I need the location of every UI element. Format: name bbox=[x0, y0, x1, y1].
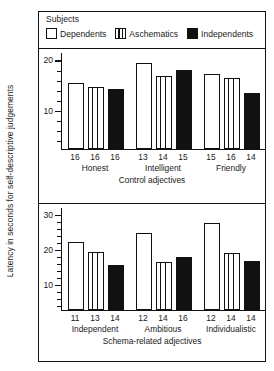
bar-value-label: 12 bbox=[138, 313, 147, 323]
bar-value-label: 14 bbox=[246, 152, 255, 162]
bar bbox=[156, 262, 172, 310]
legend: Subjects Dependents Aschematics Independ… bbox=[38, 11, 266, 49]
y-tick-major: 10 bbox=[55, 111, 62, 112]
bar-group bbox=[136, 207, 192, 310]
y-tick-major: 20 bbox=[55, 60, 62, 61]
striped-square-icon bbox=[115, 28, 126, 39]
bar-value-label: 14 bbox=[158, 313, 167, 323]
bar bbox=[88, 252, 104, 310]
category-label: Ambitious bbox=[145, 324, 182, 334]
bar-group bbox=[68, 207, 124, 310]
category-label: Honest bbox=[82, 163, 109, 173]
bar bbox=[108, 265, 124, 310]
bar-value-label: 16 bbox=[226, 152, 235, 162]
bar bbox=[136, 63, 152, 149]
bar-value-label: 16 bbox=[90, 152, 99, 162]
bar-value-label: 15 bbox=[178, 152, 187, 162]
y-tick-label: 10 bbox=[43, 280, 53, 290]
legend-title: Subjects bbox=[46, 14, 79, 24]
bar-value-label: 14 bbox=[110, 313, 119, 323]
bar-value-label: 13 bbox=[138, 152, 147, 162]
x-axis-line-bottom bbox=[62, 310, 266, 311]
bar bbox=[176, 257, 192, 310]
y-tick-label: 20 bbox=[43, 55, 53, 65]
figure: Latency in seconds for self-descriptive … bbox=[0, 0, 274, 371]
bar bbox=[176, 70, 192, 149]
bar-group bbox=[204, 207, 260, 310]
y-tick-major: 20 bbox=[55, 250, 62, 251]
bar-value-label: 15 bbox=[206, 152, 215, 162]
bar-group bbox=[68, 52, 124, 149]
legend-entry-dependents: Dependents bbox=[46, 28, 106, 39]
bar-value-label: 16 bbox=[70, 152, 79, 162]
y-tick-label: 30 bbox=[43, 210, 53, 220]
bar bbox=[88, 87, 104, 149]
category-labels-bottom: IndependentAmbitiousIndividualistic bbox=[61, 324, 266, 336]
x-axis-title-top: Control adjectives bbox=[38, 175, 266, 185]
category-label: Intelligent bbox=[145, 163, 181, 173]
chart-control-adjectives: 1020 161616131415151614 HonestIntelligen… bbox=[38, 49, 266, 204]
y-axis-title: Latency in seconds for self-descriptive … bbox=[5, 35, 15, 327]
bar bbox=[136, 233, 152, 310]
bar-value-label: 16 bbox=[178, 313, 187, 323]
y-tick-label: 10 bbox=[43, 106, 53, 116]
bar-value-label: 11 bbox=[71, 313, 80, 323]
x-axis-line-top bbox=[62, 149, 266, 150]
plot-area-top: 1020 bbox=[61, 53, 266, 150]
filled-square-icon bbox=[187, 28, 198, 39]
y-tick-major: 30 bbox=[55, 215, 62, 216]
bar bbox=[244, 93, 260, 149]
legend-entry-aschematics: Aschematics bbox=[115, 28, 178, 39]
legend-label-independents: Independents bbox=[201, 29, 253, 39]
y-tick-major: 10 bbox=[55, 285, 62, 286]
bar bbox=[224, 253, 240, 310]
bar bbox=[204, 223, 220, 310]
open-square-icon bbox=[46, 28, 57, 39]
x-axis-title-bottom: Schema-related adjectives bbox=[38, 336, 266, 346]
bar-value-label: 16 bbox=[110, 152, 119, 162]
bar bbox=[244, 261, 260, 310]
bar bbox=[224, 78, 240, 149]
bar bbox=[68, 242, 84, 310]
category-label: Individualistic bbox=[206, 324, 256, 334]
bar-value-label: 14 bbox=[158, 152, 167, 162]
legend-entry-independents: Independents bbox=[187, 28, 253, 39]
bar-value-label: 14 bbox=[226, 313, 235, 323]
category-label: Friendly bbox=[216, 163, 246, 173]
category-labels-top: HonestIntelligentFriendly bbox=[61, 163, 266, 175]
bar-group bbox=[204, 52, 260, 149]
bar-series-bottom bbox=[62, 207, 266, 310]
bar-value-label: 12 bbox=[206, 313, 215, 323]
category-label: Independent bbox=[72, 324, 119, 334]
bar bbox=[204, 74, 220, 149]
bar-value-label: 13 bbox=[90, 313, 99, 323]
bar bbox=[156, 76, 172, 149]
legend-items: Dependents Aschematics Independents bbox=[46, 28, 253, 39]
bar-group bbox=[136, 52, 192, 149]
bar-value-label: 14 bbox=[246, 313, 255, 323]
y-axis-title-container: Latency in seconds for self-descriptive … bbox=[0, 0, 20, 371]
bar-series-top bbox=[62, 52, 266, 149]
bar bbox=[108, 89, 124, 149]
y-tick-label: 20 bbox=[43, 245, 53, 255]
plot-area-bottom: 102030 bbox=[61, 208, 266, 311]
chart-schema-related-adjectives: 102030 111314121416121414 IndependentAmb… bbox=[38, 204, 266, 362]
legend-label-dependents: Dependents bbox=[60, 29, 106, 39]
bar bbox=[68, 83, 84, 149]
legend-label-aschematics: Aschematics bbox=[129, 29, 178, 39]
